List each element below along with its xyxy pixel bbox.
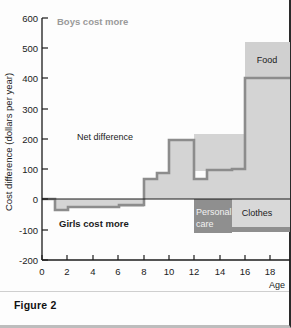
ytick-label-0: 0 [33, 194, 38, 205]
xtick-label-4: 4 [90, 266, 95, 277]
clothes-band-edge [232, 227, 290, 232]
label-personal-care-line2: care [196, 219, 214, 229]
ytick-label-400: 400 [22, 73, 38, 84]
ytick-label-100: 100 [22, 164, 38, 175]
figure-caption: Figure 2 [14, 299, 56, 311]
xtick-label-10: 10 [164, 266, 175, 277]
annotation-net-difference: Net difference [77, 132, 133, 142]
y-axis-title: Cost difference (dollars per year) [3, 73, 14, 211]
label-personal-care-line1: Personal [196, 207, 232, 217]
ytick-label-600: 600 [22, 13, 38, 24]
xtick-label-6: 6 [115, 266, 120, 277]
xtick-label-2: 2 [64, 266, 69, 277]
x-axis-title: Age [269, 280, 285, 290]
caption-divider [0, 291, 289, 292]
label-clothes: Clothes [242, 208, 273, 218]
ytick-label-minus200: -200 [19, 255, 38, 266]
xtick-label-16: 16 [240, 266, 251, 277]
upper-shade-band [194, 134, 245, 171]
chart-plot-area: 600 500 400 300 200 100 0 -100 -200 0 2 … [0, 0, 291, 290]
figure-container: 600 500 400 300 200 100 0 -100 -200 0 2 … [0, 0, 291, 328]
ytick-label-200: 200 [22, 134, 38, 145]
annotation-boys-cost-more: Boys cost more [57, 16, 128, 27]
ytick-label-minus100: -100 [19, 225, 38, 236]
xtick-label-0: 0 [39, 266, 44, 277]
ytick-label-500: 500 [22, 43, 38, 54]
xtick-label-18: 18 [265, 266, 276, 277]
annotation-girls-cost-more: Girls cost more [59, 218, 129, 229]
label-food: Food [257, 55, 278, 65]
x-axis-ticks [42, 255, 270, 260]
xtick-label-12: 12 [189, 266, 200, 277]
xtick-label-8: 8 [141, 266, 146, 277]
y-axis-ticks [42, 18, 48, 260]
ytick-label-300: 300 [22, 104, 38, 115]
xtick-label-14: 14 [215, 266, 226, 277]
cost-difference-chart: 600 500 400 300 200 100 0 -100 -200 0 2 … [0, 0, 291, 290]
